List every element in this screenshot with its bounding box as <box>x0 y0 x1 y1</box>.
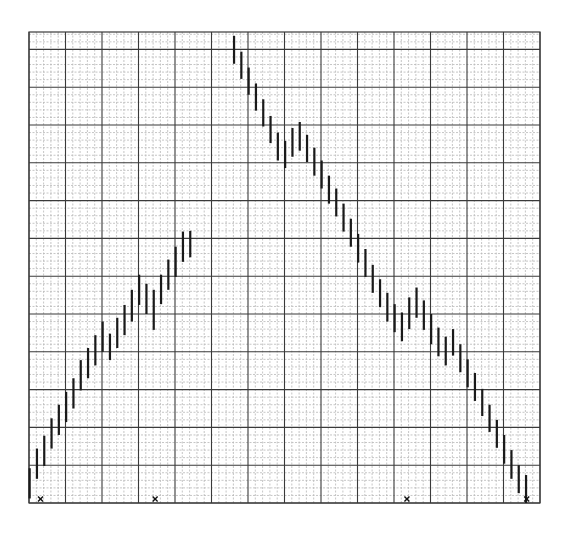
x-markers <box>38 497 529 502</box>
x-marker-icon <box>38 497 43 502</box>
price-bars <box>30 36 526 503</box>
range-bar-chart <box>0 0 571 535</box>
